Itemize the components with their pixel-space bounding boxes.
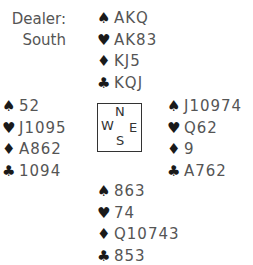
west-spades: 52 <box>19 96 40 118</box>
east-hand: ♠J10974 ♥Q62 ♦9 ♣A762 <box>167 96 242 182</box>
north-spades: AKQ <box>114 8 149 30</box>
compass-east: E <box>129 120 137 135</box>
dealer-label: Dealer: <box>0 9 66 30</box>
west-hearts: J1095 <box>19 118 67 140</box>
east-diamonds: 9 <box>184 139 195 161</box>
club-icon: ♣ <box>2 161 19 183</box>
west-diamonds: A862 <box>19 139 62 161</box>
south-spades: 863 <box>114 181 146 203</box>
north-diamonds: KJ5 <box>114 51 141 73</box>
south-diamonds: Q10743 <box>114 224 180 246</box>
heart-icon: ♥ <box>2 118 19 140</box>
heart-icon: ♥ <box>167 118 184 140</box>
east-spades: J10974 <box>184 96 242 118</box>
heart-icon: ♥ <box>97 30 114 52</box>
spade-icon: ♠ <box>97 8 114 30</box>
east-hearts: Q62 <box>184 118 218 140</box>
spade-icon: ♠ <box>97 181 114 203</box>
club-icon: ♣ <box>97 246 114 265</box>
compass-north: N <box>115 104 125 119</box>
club-icon: ♣ <box>97 73 114 95</box>
south-hearts: 74 <box>114 203 135 225</box>
spade-icon: ♠ <box>2 96 19 118</box>
compass-west: W <box>101 118 114 133</box>
north-clubs: KQJ <box>114 73 143 95</box>
diamond-icon: ♦ <box>97 224 114 246</box>
diamond-icon: ♦ <box>97 51 114 73</box>
compass-box: N W E S <box>97 103 142 152</box>
club-icon: ♣ <box>167 161 184 183</box>
dealer-info: Dealer: South <box>0 9 66 51</box>
spade-icon: ♠ <box>167 96 184 118</box>
west-hand: ♠52 ♥J1095 ♦A862 ♣1094 <box>2 96 67 182</box>
south-clubs: 853 <box>114 246 146 265</box>
dealer-value: South <box>0 30 66 51</box>
east-clubs: A762 <box>184 161 227 183</box>
north-hand: ♠AKQ ♥AK83 ♦KJ5 ♣KQJ <box>97 8 157 94</box>
north-hearts: AK83 <box>114 30 157 52</box>
diamond-icon: ♦ <box>2 139 19 161</box>
south-hand: ♠863 ♥74 ♦Q10743 ♣853 <box>97 181 180 265</box>
west-clubs: 1094 <box>19 161 61 183</box>
compass-south: S <box>116 133 124 148</box>
diamond-icon: ♦ <box>167 139 184 161</box>
heart-icon: ♥ <box>97 203 114 225</box>
